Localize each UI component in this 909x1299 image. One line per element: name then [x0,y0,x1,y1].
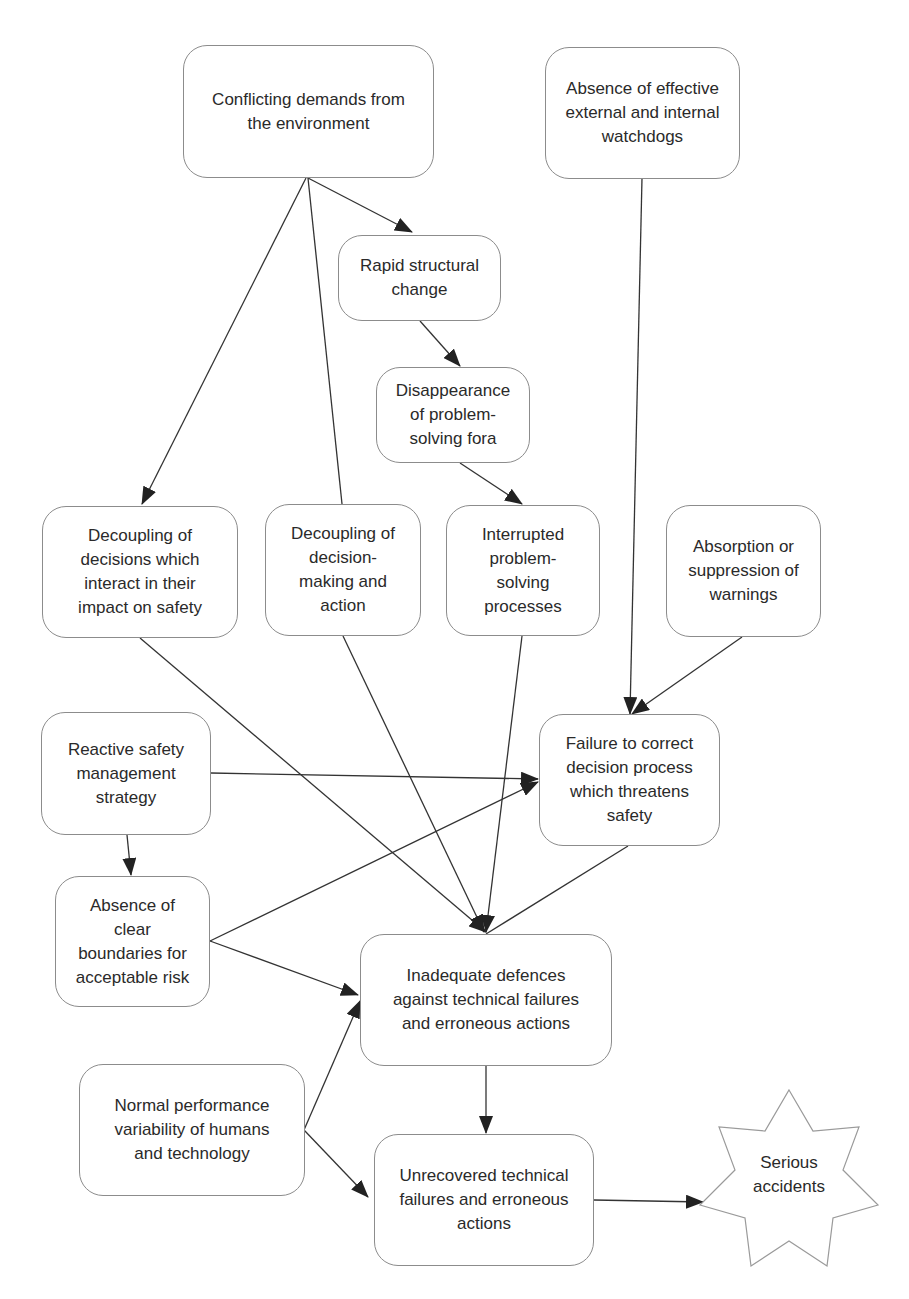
node-normal-variability: Normal performance variability of humans… [79,1064,305,1196]
edge-decoupling-action-to-inadequate [343,636,484,932]
node-label: Disappearance of problem- solving fora [396,379,510,451]
node-reactive-strategy: Reactive safety management strategy [41,712,211,835]
node-label: Serious accidents [753,1151,825,1199]
node-interrupted-processes: Interrupted problem- solving processes [446,505,600,636]
edge-reactive-to-failure [211,773,538,779]
edge-normal-to-unrecovered [304,1130,368,1197]
node-unrecovered-failures: Unrecovered technical failures and erron… [374,1134,594,1266]
node-absorption-warnings: Absorption or suppression of warnings [666,505,821,637]
node-label: Inadequate defences against technical fa… [393,964,579,1036]
node-failure-correct: Failure to correct decision process whic… [539,714,720,846]
edge-absorption-to-failure [632,637,742,714]
edge-failure-to-inadequate [486,846,628,934]
edge-conflicting-to-decoupling-action [308,178,342,504]
node-conflicting-demands: Conflicting demands from the environment [183,45,434,178]
node-label: Decoupling of decisions which interact i… [78,524,202,620]
node-label: Absence of effective external and intern… [565,77,719,149]
node-label: Unrecovered technical failures and erron… [399,1164,568,1236]
node-serious-accidents: Serious accidents [729,1140,849,1210]
node-rapid-structural-change: Rapid structural change [338,235,501,321]
node-label: Conflicting demands from the environment [212,88,405,136]
edge-watchdogs-to-failure [630,178,642,714]
node-label: Normal performance variability of humans… [115,1094,270,1166]
node-decoupling-decisions: Decoupling of decisions which interact i… [42,506,238,638]
node-label: Reactive safety management strategy [68,738,184,810]
node-label: Rapid structural change [360,254,479,302]
edge-unrecovered-to-accidents [594,1200,703,1202]
edge-disappearance-to-interrupted [460,463,522,504]
edge-conflicting-to-decoupling-decisions [142,178,306,504]
edge-boundaries-to-failure [210,782,538,941]
edge-rapid-to-disappearance [420,321,460,366]
node-label: Failure to correct decision process whic… [566,732,694,828]
node-decoupling-action: Decoupling of decision- making and actio… [265,504,421,636]
node-label: Absorption or suppression of warnings [688,535,799,607]
node-absence-boundaries: Absence of clear boundaries for acceptab… [55,876,210,1007]
node-disappearance-fora: Disappearance of problem- solving fora [376,367,530,463]
node-inadequate-defences: Inadequate defences against technical fa… [360,934,612,1066]
node-absence-watchdogs: Absence of effective external and intern… [545,47,740,179]
edge-boundaries-to-inadequate [210,941,358,995]
edge-normal-to-inadequate [304,1001,360,1130]
edge-interrupted-to-inadequate [486,636,522,932]
node-label: Decoupling of decision- making and actio… [291,522,395,618]
edge-reactive-to-boundaries [127,835,131,875]
edge-conflicting-to-rapid [308,178,412,232]
node-label: Absence of clear boundaries for acceptab… [76,894,189,990]
node-label: Interrupted problem- solving processes [482,523,564,619]
causal-diagram: Conflicting demands from the environment… [0,0,909,1299]
